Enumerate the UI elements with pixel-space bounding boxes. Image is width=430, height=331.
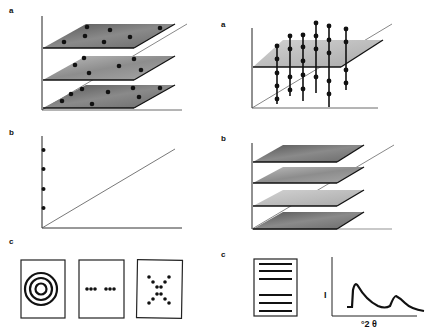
diffraction-curve [347, 284, 424, 311]
right-b-figure [252, 143, 394, 229]
card-dot-cross [136, 260, 182, 319]
plot-ylabel: I [324, 290, 327, 300]
card-concentric-rings [21, 260, 65, 318]
left-a-figure [42, 16, 187, 110]
card-stacked-lines [254, 259, 297, 316]
right-a-figure [252, 21, 392, 108]
plot-xlabel: °2 θ [361, 319, 377, 329]
right-c-figure: I °2 θ [254, 257, 424, 329]
diagram-canvas: I °2 θ [0, 0, 430, 331]
left-c-figure [21, 260, 183, 319]
left-b-figure [42, 136, 183, 228]
